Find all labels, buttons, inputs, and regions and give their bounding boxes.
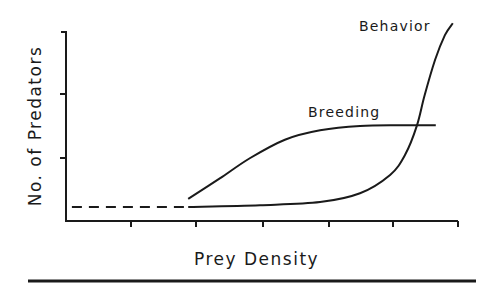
behavior-label: Behavior	[359, 18, 431, 34]
y-axis-title: No. of Predators	[25, 46, 45, 207]
breeding-curve	[188, 125, 436, 199]
axes	[60, 32, 458, 227]
breeding-label: Breeding	[308, 104, 380, 120]
series-layer	[72, 23, 453, 207]
y-axis	[61, 32, 458, 221]
x-axis-title: Prey Density	[194, 249, 319, 269]
chart: Behavior Breeding Prey Density No. of Pr…	[0, 0, 481, 285]
